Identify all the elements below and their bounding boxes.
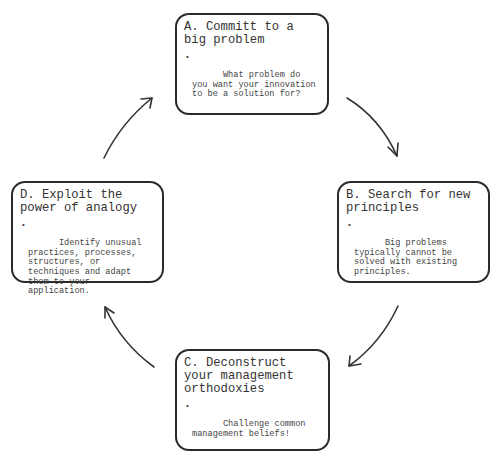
step-box-b: B. Search for new principles • Big probl… bbox=[337, 181, 490, 283]
step-title-b: B. Search for new principles bbox=[346, 189, 481, 215]
step-bullets-d: • Identify unusual practices, processes,… bbox=[20, 220, 155, 306]
bullet-icon: • bbox=[21, 220, 26, 230]
step-bullet: • Identify unusual practices, processes,… bbox=[20, 220, 155, 306]
step-title-c: C. Deconstruct your management orthodoxi… bbox=[184, 357, 321, 396]
step-title-d: D. Exploit the power of analogy bbox=[20, 189, 155, 215]
step-bullet: • Big problems typically cannot be solve… bbox=[346, 220, 481, 287]
arrow-c-to-d bbox=[105, 307, 154, 367]
arrow-d-to-a bbox=[104, 98, 152, 158]
step-bullet: • What problem do you want your innovati… bbox=[184, 52, 320, 110]
bullet-icon: • bbox=[185, 52, 190, 62]
step-bullets-b: • Big problems typically cannot be solve… bbox=[346, 220, 481, 287]
step-title-a: A. Committ to a big problem bbox=[184, 21, 320, 47]
bullet-text: Identify unusual practices, processes, s… bbox=[28, 238, 147, 296]
bullet-text: Big problems typically cannot be solved … bbox=[354, 238, 462, 277]
bullet-icon: • bbox=[347, 220, 352, 230]
step-bullets-c: • Challenge common management beliefs! bbox=[184, 401, 321, 449]
step-box-c: C. Deconstruct your management orthodoxi… bbox=[175, 349, 330, 451]
arrow-a-to-b bbox=[347, 98, 398, 156]
bullet-icon: • bbox=[185, 401, 190, 411]
bullet-text: What problem do you want your innovation… bbox=[192, 70, 321, 99]
step-box-d: D. Exploit the power of analogy • Identi… bbox=[11, 181, 164, 283]
step-bullet: • Challenge common management beliefs! bbox=[184, 401, 321, 449]
arrow-b-to-c bbox=[349, 306, 398, 366]
step-box-a: A. Committ to a big problem • What probl… bbox=[175, 13, 329, 115]
bullet-text: Challenge common management beliefs! bbox=[192, 419, 311, 439]
step-bullets-a: • What problem do you want your innovati… bbox=[184, 52, 320, 110]
